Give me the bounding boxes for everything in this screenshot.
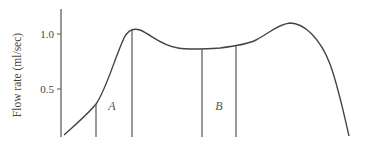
y-tick-label-1-0: 1.0 [40, 28, 54, 40]
flow-curve [64, 23, 349, 136]
y-axis-label: Flow rate (ml/sec) [11, 33, 24, 117]
y-tick-label-0-5: 0.5 [40, 83, 54, 95]
region-a-label: A [107, 99, 116, 113]
region-b-label: B [215, 99, 223, 113]
flow-rate-chart: Flow rate (ml/sec) 1.0 0.5 A B [0, 0, 365, 150]
